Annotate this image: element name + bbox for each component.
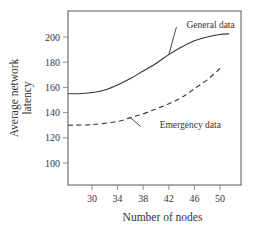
series-line-general-data [68,34,229,94]
y-axis-title: Average network latency [8,58,34,137]
y-tick-label: 100 [45,158,60,169]
x-tick-label: 42 [164,193,174,204]
x-tick-label: 30 [87,193,97,204]
x-tick-label: 34 [113,193,123,204]
series-line-emergency-data [68,69,220,126]
annotations-group: General dataEmergency data [130,20,235,131]
line-chart: 100120140160180200 303438424650 General … [0,0,253,232]
x-tick-label: 46 [189,193,199,204]
y-tick-label: 140 [45,107,60,118]
x-tick-label: 50 [215,193,225,204]
x-axis-title: Number of nodes [123,211,203,223]
x-tick-label: 38 [138,193,148,204]
y-axis-title-line-2: latency [21,81,34,114]
annotation-label: General data [186,20,235,30]
y-axis-title-line-1: Average network [8,58,21,137]
annotation-label: Emergency data [160,120,222,130]
series-group [68,34,229,125]
plot-frame [68,11,241,185]
y-axis: 100120140160180200 [45,32,68,169]
y-tick-label: 160 [45,82,60,93]
y-tick-label: 120 [45,132,60,143]
x-axis: 303438424650 [87,185,225,204]
y-tick-label: 180 [45,57,60,68]
annotation-leader-line [130,118,140,127]
y-tick-label: 200 [45,32,60,43]
